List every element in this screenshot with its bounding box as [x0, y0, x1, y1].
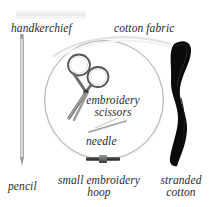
label-cotton-fabric: cotton fabric: [114, 22, 174, 34]
pencil-tip: [20, 157, 24, 166]
embroidery-hoop-bracket: [86, 155, 120, 163]
label-needle: needle: [86, 135, 117, 147]
needle-object: [88, 120, 128, 134]
handkerchief-object: [16, 10, 86, 17]
label-stranded-cotton: stranded cotton: [150, 174, 212, 198]
embroidery-equipment-figure: handkerchief cotton fabric embroidery sc…: [0, 0, 214, 207]
pencil-barrel: [20, 39, 24, 157]
hoop-tension-screw: [99, 155, 107, 163]
label-embroidery-scissors: embroidery scissors: [76, 94, 150, 118]
label-small-embroidery-hoop: small embroidery hoop: [53, 174, 145, 198]
pencil-object: [19, 34, 25, 166]
stranded-cotton-object: [158, 38, 204, 168]
label-pencil: pencil: [8, 180, 37, 192]
label-handkerchief: handkerchief: [11, 22, 72, 34]
